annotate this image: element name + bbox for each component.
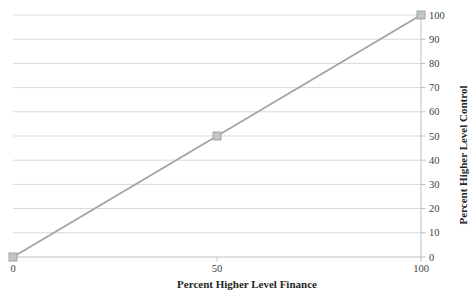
data-point-marker bbox=[9, 253, 17, 261]
y-tick-label: 30 bbox=[429, 179, 440, 190]
data-point-marker bbox=[417, 11, 425, 19]
y-tick-label: 50 bbox=[429, 131, 440, 142]
plot-area: 0102030405060708090100050100 Percent Hig… bbox=[0, 0, 471, 304]
y-tick-label: 100 bbox=[429, 10, 445, 21]
y-tick-label: 40 bbox=[429, 155, 440, 166]
x-tick-label: 100 bbox=[413, 263, 429, 274]
y-tick-label: 0 bbox=[429, 252, 434, 263]
gridline-layer bbox=[13, 15, 421, 233]
y-tick-label: 70 bbox=[429, 82, 440, 93]
x-tick-label: 50 bbox=[212, 263, 223, 274]
line-chart: 0102030405060708090100050100 Percent Hig… bbox=[0, 0, 471, 304]
tick-label-layer: 0102030405060708090100050100 bbox=[10, 10, 444, 275]
y-tick-label: 90 bbox=[429, 34, 440, 45]
data-point-marker bbox=[213, 132, 221, 140]
y-tick-label: 10 bbox=[429, 227, 440, 238]
y-axis-title: Percent Higher Level Control bbox=[457, 86, 469, 225]
y-tick-label: 60 bbox=[429, 106, 440, 117]
x-axis-title: Percent Higher Level Finance bbox=[177, 278, 317, 290]
y-tick-label: 20 bbox=[429, 203, 440, 214]
y-tick-label: 80 bbox=[429, 58, 440, 69]
x-tick-label: 0 bbox=[10, 263, 15, 274]
